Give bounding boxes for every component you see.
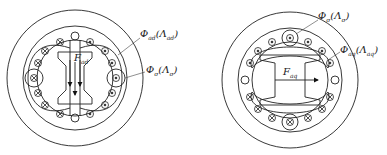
label-symbol: F [74,52,81,63]
conductor-cross [31,75,38,82]
label-symbol: Φ [140,28,148,39]
leader-line [118,38,140,55]
conductor-cross [327,94,334,101]
conductor-dot [113,75,120,82]
conductor-cross [42,102,49,109]
label-perm-subscript: σ [341,16,345,23]
label-perm-subscript: aq [367,50,374,57]
right-machine-q-axis [222,12,358,148]
label-subscript: σ [154,70,158,77]
label-perm-subscript: ad [167,34,174,41]
label-subscript: ad [81,58,88,65]
conductor-dot [102,102,109,109]
conductor-cross [247,94,254,101]
label-perm: Λ [160,28,167,39]
conductor-cross [42,48,49,55]
label-symbol: Φ [146,64,154,75]
conductor-cross [305,115,312,122]
label-subscript: σ [326,16,330,23]
leader-line [125,72,145,78]
conductor-cross [269,115,276,122]
label-flux-ad: Φad(Λad) [140,28,178,41]
leader-line [296,20,318,34]
label-flux-sigma-right: Φσ(Λσ) [318,10,349,23]
label-perm: Λ [360,44,367,55]
conductor-cross [287,119,294,126]
conductor-dot [269,39,276,46]
label-perm-subscript: σ [169,70,173,77]
conductor-dot [305,39,312,46]
label-symbol: Φ [340,44,348,55]
label-subscript: aq [348,50,355,57]
leader-line [328,52,340,60]
conductor-dot [287,35,294,42]
label-mmf-ad: Fad [74,52,88,65]
label-flux-aq: Φaq(Λaq) [340,44,378,57]
conductor-dot [327,60,334,67]
label-flux-sigma-left: Φσ(Λσ) [146,64,177,77]
left-machine-d-axis [7,10,143,146]
label-symbol: Φ [318,10,326,21]
conductor-dot [102,48,109,55]
label-mmf-aq: Faq [283,66,297,79]
conductor-dot [247,60,254,67]
diagram-canvas [0,0,387,155]
label-symbol: F [283,66,290,77]
label-subscript: ad [148,34,155,41]
label-subscript: aq [290,72,297,79]
